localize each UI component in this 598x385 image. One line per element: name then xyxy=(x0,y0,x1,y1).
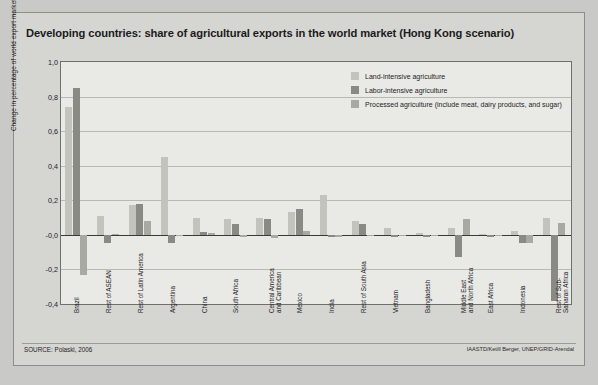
chart-legend: Land-intensive agriculture Labor-intensi… xyxy=(351,72,562,114)
legend-label-labor-intensive: Labor-intensive agriculture xyxy=(365,87,448,94)
bar-group xyxy=(220,62,252,304)
x-axis-label: Mexico xyxy=(296,293,303,313)
bar-land-intensive[interactable] xyxy=(161,157,168,235)
bar-processed[interactable] xyxy=(208,233,215,235)
bar-land-intensive[interactable] xyxy=(97,216,104,235)
bar-processed[interactable] xyxy=(240,235,247,237)
x-axis-label: Vietnam xyxy=(392,290,399,313)
legend-swatch-land-intensive xyxy=(351,72,359,80)
y-axis-tick: -0,4 xyxy=(32,300,58,309)
figure-footer: SOURCE: Polaski, 2006 IAASTD/Ketill Berg… xyxy=(22,343,576,357)
x-axis-label: Brazil xyxy=(73,297,80,313)
bar-labor-intensive[interactable] xyxy=(391,235,398,238)
bar-land-intensive[interactable] xyxy=(416,233,423,235)
bar-labor-intensive[interactable] xyxy=(359,224,366,234)
x-axis-label: Rest of ASEAN xyxy=(105,270,112,313)
bar-labor-intensive[interactable] xyxy=(328,235,335,237)
bar-labor-intensive[interactable] xyxy=(296,209,303,235)
legend-label-land-intensive: Land-intensive agriculture xyxy=(365,73,445,80)
bar-land-intensive[interactable] xyxy=(384,228,391,235)
x-axis-label: Bangladesh xyxy=(424,280,431,313)
y-axis-tick: 0,4 xyxy=(32,161,58,170)
bar-processed[interactable] xyxy=(271,235,278,238)
bar-group xyxy=(316,62,348,304)
bar-group xyxy=(189,62,221,304)
bar-processed[interactable] xyxy=(176,235,183,236)
bar-processed[interactable] xyxy=(80,235,87,275)
page-title: Developing countries: share of agricultu… xyxy=(26,27,514,39)
y-axis-label: Change in percentage of world export mar… xyxy=(10,0,17,131)
x-axis-label: South Africa xyxy=(232,279,239,313)
y-axis-tick: 1,0 xyxy=(32,58,58,67)
bar-processed[interactable] xyxy=(463,219,470,235)
bar-land-intensive[interactable] xyxy=(193,218,200,235)
bar-land-intensive[interactable] xyxy=(479,234,486,235)
bar-labor-intensive[interactable] xyxy=(487,235,494,237)
bar-processed[interactable] xyxy=(112,234,119,235)
bar-group xyxy=(93,62,125,304)
legend-label-processed: Processed agriculture (include meat, dai… xyxy=(365,101,562,108)
bar-land-intensive[interactable] xyxy=(224,219,231,235)
bar-labor-intensive[interactable] xyxy=(264,219,271,235)
legend-item: Labor-intensive agriculture xyxy=(351,86,562,94)
x-axis-label: Middle East and North Africa xyxy=(460,268,474,313)
bar-group xyxy=(61,62,93,304)
bar-labor-intensive[interactable] xyxy=(455,235,462,257)
credit-text: IAASTD/Ketill Berger, UNEP/GRID-Arendal xyxy=(467,346,574,352)
bar-land-intensive[interactable] xyxy=(65,107,72,235)
bar-processed[interactable] xyxy=(431,235,438,236)
bar-land-intensive[interactable] xyxy=(129,205,136,234)
x-axis-label: Argentina xyxy=(169,286,176,313)
bar-processed[interactable] xyxy=(144,221,151,235)
x-axis-label: Rest of Sub- Saharan Africa xyxy=(555,272,569,313)
bar-land-intensive[interactable] xyxy=(256,218,263,235)
bar-group xyxy=(284,62,316,304)
bar-processed[interactable] xyxy=(367,235,374,236)
bar-labor-intensive[interactable] xyxy=(519,235,526,244)
legend-item: Land-intensive agriculture xyxy=(351,72,562,80)
bar-land-intensive[interactable] xyxy=(320,195,327,235)
bar-land-intensive[interactable] xyxy=(352,221,359,235)
legend-item: Processed agriculture (include meat, dai… xyxy=(351,100,562,108)
bar-labor-intensive[interactable] xyxy=(168,235,175,244)
bar-labor-intensive[interactable] xyxy=(232,224,239,234)
figure-container: Developing countries: share of agricultu… xyxy=(13,12,585,366)
x-axis-label: East Africa xyxy=(487,283,494,313)
y-axis-tick: -0,0 xyxy=(32,230,58,239)
bar-land-intensive[interactable] xyxy=(288,212,295,234)
bar-land-intensive[interactable] xyxy=(448,228,455,235)
bar-labor-intensive[interactable] xyxy=(136,204,143,235)
source-text: SOURCE: Polaski, 2006 xyxy=(24,346,92,353)
y-axis: Change in percentage of world export mar… xyxy=(22,61,58,305)
bar-labor-intensive[interactable] xyxy=(73,88,80,235)
legend-swatch-labor-intensive xyxy=(351,86,359,94)
bar-processed[interactable] xyxy=(399,235,406,236)
y-axis-tick: -0,2 xyxy=(32,265,58,274)
y-axis-tick: 0,2 xyxy=(32,196,58,205)
bar-land-intensive[interactable] xyxy=(511,231,518,234)
bar-processed[interactable] xyxy=(335,235,342,237)
x-axis-label: India xyxy=(328,299,335,313)
bar-land-intensive[interactable] xyxy=(543,218,550,235)
bar-labor-intensive[interactable] xyxy=(423,235,430,237)
x-axis-label: Rest of South Asia xyxy=(360,261,367,313)
bar-processed[interactable] xyxy=(303,231,310,234)
x-axis-label: Central America and Caribbean xyxy=(268,268,282,313)
bar-processed[interactable] xyxy=(526,235,533,244)
x-axis-label: Rest of Latin America xyxy=(137,253,144,313)
x-axis-label: China xyxy=(201,297,208,313)
y-axis-tick: 0,6 xyxy=(32,127,58,136)
bar-labor-intensive[interactable] xyxy=(200,232,207,235)
y-axis-tick: 0,8 xyxy=(32,92,58,101)
legend-swatch-processed xyxy=(351,100,359,108)
bar-labor-intensive[interactable] xyxy=(104,235,111,244)
bar-processed[interactable] xyxy=(558,223,565,235)
bar-processed[interactable] xyxy=(495,235,502,236)
bar-group xyxy=(157,62,189,304)
x-axis-label: Indonesia xyxy=(519,286,526,313)
